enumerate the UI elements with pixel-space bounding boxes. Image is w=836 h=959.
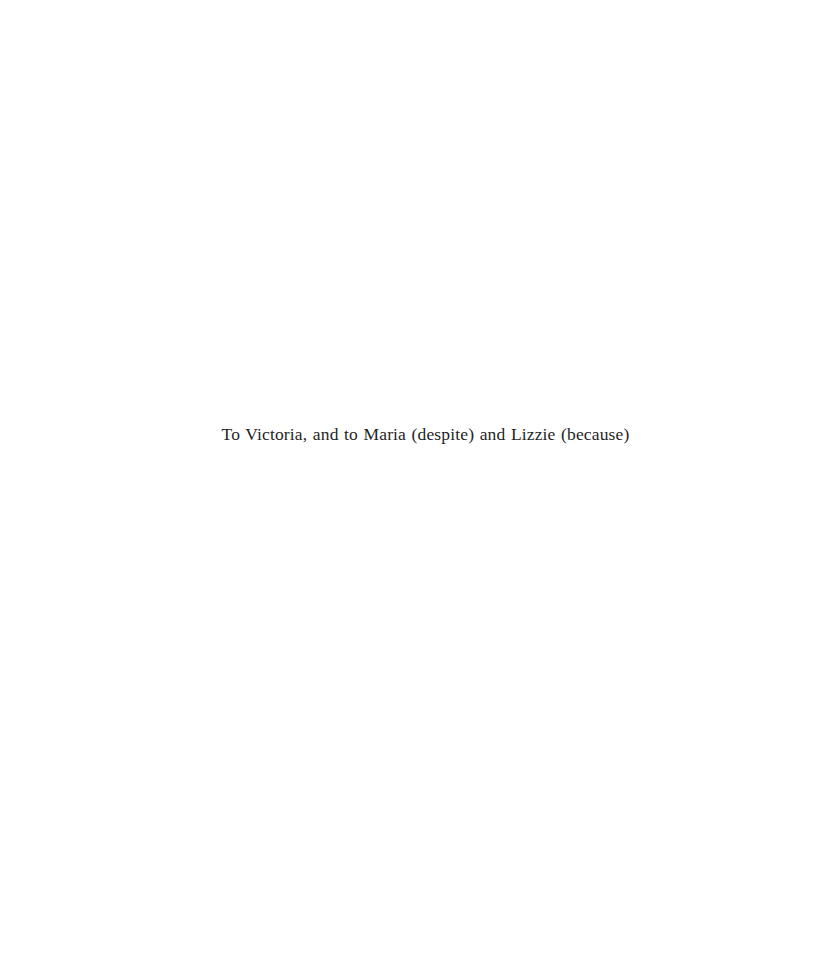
- dedication-text: To Victoria, and to Maria (despite) and …: [0, 422, 836, 446]
- dedication-page: To Victoria, and to Maria (despite) and …: [0, 0, 836, 959]
